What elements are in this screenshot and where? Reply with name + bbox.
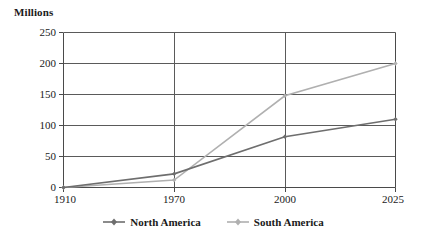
vertical-gridlines xyxy=(175,33,286,188)
legend-item-south-america[interactable]: South America xyxy=(227,216,324,228)
data-point-marker xyxy=(283,134,287,138)
series-north-america xyxy=(61,117,397,190)
y-tick-label: 0 xyxy=(51,181,57,193)
legend-marker-icon xyxy=(103,217,125,227)
y-tick-label: 50 xyxy=(45,150,57,162)
x-axis-tick-marks xyxy=(64,188,396,193)
axis-frame xyxy=(64,33,396,188)
chart-legend: North America South America xyxy=(0,216,427,228)
x-tick-label: 1970 xyxy=(163,193,186,205)
line-chart: Millions 250 200 150 100 50 0 xyxy=(0,0,427,249)
y-tick-label: 100 xyxy=(40,119,57,131)
x-tick-label: 2000 xyxy=(274,193,297,205)
legend-label: North America xyxy=(130,216,201,228)
legend-label: South America xyxy=(254,216,324,228)
chart-plot-area: 250 200 150 100 50 0 xyxy=(0,0,427,249)
x-tick-label: 2025 xyxy=(382,193,405,205)
data-point-marker xyxy=(393,61,397,65)
data-point-marker xyxy=(393,117,397,121)
x-axis-tick-labels: 1910 1970 2000 2025 xyxy=(54,193,405,205)
x-tick-label: 1910 xyxy=(54,193,77,205)
legend-marker-icon xyxy=(227,217,249,227)
y-axis-tick-labels: 250 200 150 100 50 0 xyxy=(40,26,57,193)
y-tick-label: 250 xyxy=(40,26,57,38)
y-axis-tick-marks xyxy=(59,33,63,188)
y-tick-label: 200 xyxy=(40,57,57,69)
y-tick-label: 150 xyxy=(40,88,57,100)
legend-item-north-america[interactable]: North America xyxy=(103,216,201,228)
data-point-marker xyxy=(172,172,176,176)
data-point-marker xyxy=(61,185,65,189)
